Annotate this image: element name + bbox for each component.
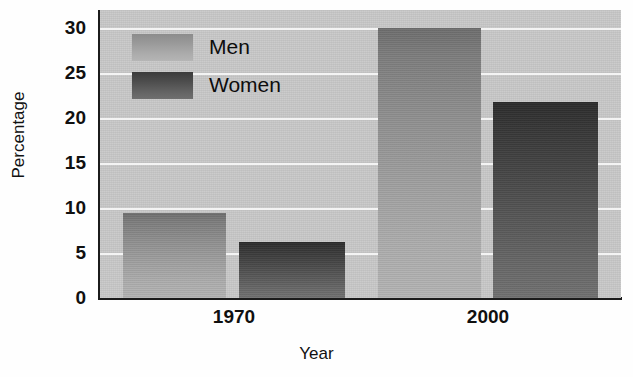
y-tick-label: 15: [40, 152, 86, 174]
y-tick-label: 10: [40, 197, 86, 219]
bar-men-2000: [378, 28, 481, 298]
women-swatch-icon: [132, 72, 193, 99]
y-axis-title: Percentage: [9, 55, 29, 215]
bar-chart-figure: Percentage 051015202530 Men Women 197020…: [0, 0, 633, 377]
plot-area: Men Women: [100, 10, 621, 298]
chart-legend: Men Women: [132, 28, 281, 104]
legend-label-men: Men: [209, 35, 250, 59]
men-swatch-icon: [132, 34, 193, 61]
legend-item-men: Men: [132, 28, 281, 66]
x-axis-title: Year: [0, 344, 633, 364]
y-tick-label: 5: [40, 242, 86, 264]
legend-item-women: Women: [132, 66, 281, 104]
legend-label-women: Women: [209, 73, 281, 97]
bar-women-2000: [493, 102, 598, 298]
bar-men-1970: [123, 213, 226, 299]
y-tick-label: 0: [40, 287, 86, 309]
y-tick-label: 30: [40, 17, 86, 39]
y-tick-label: 20: [40, 107, 86, 129]
x-tick-label-2000: 2000: [467, 306, 509, 328]
x-tick-label-1970: 1970: [213, 306, 255, 328]
y-axis-tick-labels: 051015202530: [34, 0, 86, 377]
bar-women-1970: [239, 242, 345, 298]
y-tick-label: 25: [40, 62, 86, 84]
